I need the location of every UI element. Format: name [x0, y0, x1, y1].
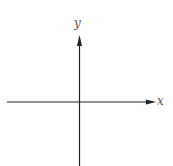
y-axis-label: y [74, 17, 81, 29]
y-axis-arrow-icon [77, 35, 82, 46]
coordinate-axes [0, 0, 173, 166]
x-axis-label: x [157, 95, 164, 107]
x-axis-arrow-icon [146, 100, 156, 105]
